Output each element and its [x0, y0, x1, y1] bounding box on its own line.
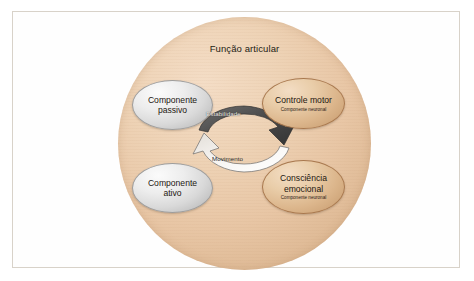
node-subtitle: Componente neuronal: [281, 107, 326, 112]
node-componente-passivo[interactable]: Componente passivo: [132, 80, 213, 130]
node-consciencia-emocional[interactable]: Consciência emocional Componente neurona…: [262, 160, 345, 214]
node-componente-ativo[interactable]: Componente ativo: [132, 163, 213, 213]
node-title: Componente: [148, 178, 197, 188]
node-subtitle: Componente neuronal: [281, 195, 326, 200]
arrow-label-movimento: Movimento: [212, 155, 243, 162]
node-title-line2: emocional: [284, 184, 323, 194]
node-controle-motor[interactable]: Controle motor Componente neuronal: [262, 78, 345, 129]
node-title: Consciência: [280, 173, 327, 183]
circle-title: Função articular: [118, 43, 371, 54]
node-title-line2: passivo: [158, 105, 187, 115]
node-title: Componente: [148, 95, 197, 105]
node-title: Controle motor: [275, 95, 332, 105]
arrow-label-estabilidade: Estabilidade: [206, 110, 241, 117]
node-title-line2: ativo: [163, 188, 181, 198]
figure-canvas: Função articular Componente passivo Comp…: [0, 0, 474, 281]
